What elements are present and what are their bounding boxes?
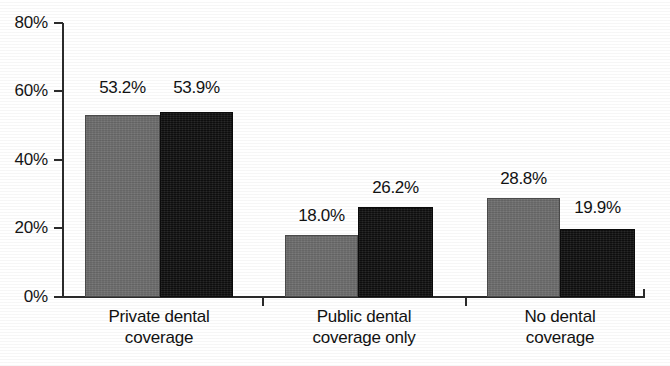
- category-label-nocoverage: No dental coverage: [481, 306, 639, 348]
- bar-value-nocoverage-series-a: 28.8%: [487, 169, 560, 189]
- bar-chart: 0% 20% 40% 60% 80% 53.2% 53.9% 18.0% 26.…: [0, 0, 670, 366]
- bar-value-nocoverage-series-b: 19.9%: [560, 198, 635, 218]
- category-label-public: Public dental coverage only: [275, 306, 453, 348]
- y-tick-label-20: 20%: [0, 218, 48, 238]
- y-tick-mark-60: [54, 90, 63, 92]
- y-tick-mark-40: [54, 159, 63, 161]
- y-tick-mark-0: [54, 296, 63, 298]
- y-tick-label-60: 60%: [0, 81, 48, 101]
- bar-private-series-a: [85, 115, 160, 297]
- bar-private-series-b: [160, 112, 233, 297]
- x-tick-mark-1: [262, 297, 264, 306]
- x-tick-mark-2: [465, 297, 467, 306]
- bar-value-public-series-b: 26.2%: [358, 178, 433, 198]
- bar-value-private-series-b: 53.9%: [160, 78, 233, 98]
- y-tick-mark-80: [54, 22, 63, 24]
- bar-public-series-b: [358, 207, 433, 297]
- bar-public-series-a: [285, 235, 358, 297]
- bar-nocoverage-series-b: [560, 229, 635, 297]
- category-label-private: Private dental coverage: [75, 306, 243, 348]
- y-tick-label-80: 80%: [0, 13, 48, 33]
- y-tick-label-40: 40%: [0, 150, 48, 170]
- bar-nocoverage-series-a: [487, 198, 560, 297]
- y-tick-label-0: 0%: [0, 287, 48, 307]
- bar-value-public-series-a: 18.0%: [285, 206, 358, 226]
- y-tick-mark-20: [54, 227, 63, 229]
- bar-value-private-series-a: 53.2%: [85, 78, 160, 98]
- x-axis-end-tick: [643, 289, 645, 298]
